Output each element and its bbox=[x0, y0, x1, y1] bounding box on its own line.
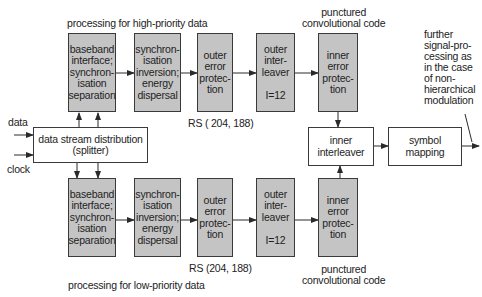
bottom-baseband-label: baseband interface; synchron- isation se… bbox=[68, 189, 115, 247]
inner-interleaver-label: inner interleaver bbox=[318, 135, 365, 158]
top-outer-error-block: outer error protec- tion bbox=[197, 33, 233, 112]
top-outer-interleaver-label: outer inter- leaver I=12 bbox=[262, 44, 289, 102]
symbol-mapping-label: symbol mapping bbox=[406, 135, 445, 158]
inner-interleaver-block: inner interleaver bbox=[308, 127, 374, 166]
bottom-baseband-block: baseband interface; synchron- isation se… bbox=[68, 178, 116, 257]
high-priority-title: processing for high-priority data bbox=[67, 17, 207, 29]
bottom-outer-error-block: outer error protec- tion bbox=[197, 178, 233, 257]
bottom-outer-interleaver-label: outer inter- leaver I=12 bbox=[262, 189, 289, 247]
further-processing-note: further signal-pro- cessing as in the ca… bbox=[424, 29, 475, 106]
data-input-label: data bbox=[8, 116, 28, 128]
top-baseband-label: baseband interface; synchron- isation se… bbox=[68, 44, 115, 102]
low-priority-title: processing for low-priority data bbox=[68, 279, 205, 291]
bottom-punctured-label: punctured convolutional code bbox=[302, 264, 385, 286]
bottom-rs-label: RS (204, 188) bbox=[189, 262, 252, 274]
top-baseband-block: baseband interface; synchron- isation se… bbox=[68, 33, 116, 112]
top-inner-error-block: inner error protec- tion bbox=[318, 33, 358, 112]
top-sync-inversion-block: synchron- isation inversion; energy disp… bbox=[134, 33, 181, 112]
bottom-inner-error-block: inner error protec- tion bbox=[318, 178, 358, 257]
clock-input-label: clock bbox=[7, 163, 30, 175]
symbol-mapping-block: symbol mapping bbox=[388, 127, 462, 166]
splitter-block: data stream distribution (splitter) bbox=[33, 127, 148, 163]
bottom-sync-inversion-block: synchron- isation inversion; energy disp… bbox=[134, 178, 181, 257]
bottom-sync-inversion-label: synchron- isation inversion; energy disp… bbox=[135, 189, 179, 247]
top-inner-error-label: inner error protec- tion bbox=[322, 50, 353, 96]
top-punctured-label: punctured convolutional code bbox=[302, 7, 385, 29]
top-outer-interleaver-block: outer inter- leaver I=12 bbox=[256, 33, 295, 112]
bottom-inner-error-label: inner error protec- tion bbox=[322, 195, 353, 241]
bottom-outer-error-label: outer error protec- tion bbox=[199, 195, 230, 241]
top-sync-inversion-label: synchron- isation inversion; energy disp… bbox=[135, 44, 179, 102]
bottom-outer-interleaver-block: outer inter- leaver I=12 bbox=[256, 178, 295, 257]
top-outer-error-label: outer error protec- tion bbox=[199, 50, 230, 96]
top-rs-label: RS ( 204, 188) bbox=[188, 117, 254, 129]
splitter-label: data stream distribution (splitter) bbox=[38, 134, 142, 157]
